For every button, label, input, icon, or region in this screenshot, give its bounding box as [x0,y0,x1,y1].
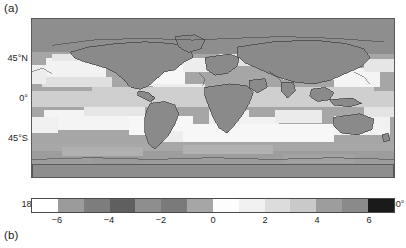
map-plot-area: 180° 90°W 0° 90°E 180° [31,18,395,178]
colorbar-tick-6: 6 [366,215,371,225]
colorbar-tick-2: 2 [262,215,267,225]
world-map-heatmap [32,19,394,177]
colorbar-band-2 [84,199,110,212]
y-tick-label-45n: 45°N [7,53,28,63]
figure-panel-a: (a) (b) [0,0,406,248]
colorbar-band-8 [239,199,265,212]
colorbar [31,198,395,213]
colorbar-band-10 [290,199,316,212]
colorbar-band-9 [265,199,291,212]
colorbar-tick-m6: −6 [52,215,62,225]
colorbar-tick-4: 4 [314,215,319,225]
colorbar-band-3 [110,199,136,212]
colorbar-tick-m4: −4 [104,215,114,225]
panel-label-a: (a) [4,2,18,14]
colorbar-band-7 [213,199,239,212]
colorbar-band-12 [342,199,368,212]
colorbar-band-11 [316,199,342,212]
colorbar-tick-m2: −2 [156,215,166,225]
colorbar-band-0 [32,199,58,212]
colorbar-band-1 [58,199,84,212]
colorbar-tick-0: 0 [210,215,215,225]
y-tick-label-45s: 45°S [8,133,28,143]
colorbar-band-6 [187,199,213,212]
colorbar-strip [31,198,395,213]
colorbar-band-4 [135,199,161,212]
colorbar-band-5 [161,199,187,212]
map-frame [31,18,395,178]
y-tick-label-0: 0° [19,93,28,103]
panel-label-b: (b) [4,229,18,241]
colorbar-band-13 [368,199,394,212]
